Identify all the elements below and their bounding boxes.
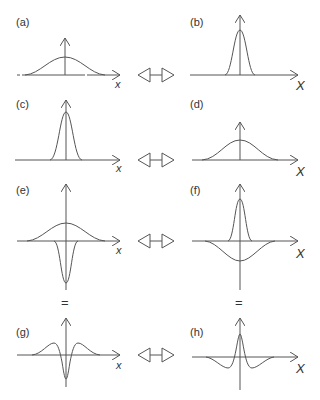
fourier-arrow-ef [138, 234, 174, 248]
panel-a: (a) x [16, 16, 121, 90]
panel-c: (c) x [15, 98, 122, 174]
fourier-arrow-gh [138, 348, 174, 362]
panel-f: (f) X [190, 184, 306, 290]
panel-g: (g) x [16, 318, 122, 387]
panel-h: (h) X [190, 318, 306, 390]
fourier-gaussian-diagram: (a) x (b) X (c) x (d) X (e) [0, 0, 320, 400]
panel-label-h: (h) [190, 326, 203, 338]
axis-label-x: X [295, 164, 306, 179]
panel-b: (b) X [190, 15, 306, 93]
axis-label-x: X [295, 78, 306, 93]
axis-label-x: X [295, 246, 306, 261]
panel-label-e: (e) [16, 184, 29, 196]
axis-label-x: x [115, 244, 122, 256]
panel-label-c: (c) [16, 98, 29, 110]
panel-label-a: (a) [16, 16, 29, 28]
axis-label-x: x [115, 162, 122, 174]
equals-sign-right: = [235, 295, 243, 310]
axis-label-x: X [295, 361, 306, 376]
fourier-arrow-ab [138, 68, 174, 82]
panel-label-f: (f) [190, 184, 200, 196]
panel-label-g: (g) [16, 326, 29, 338]
panel-e: (e) x [16, 184, 122, 290]
equals-sign-left: = [61, 295, 69, 310]
panel-label-b: (b) [190, 16, 203, 28]
fourier-arrow-cd [138, 153, 174, 167]
panel-label-d: (d) [190, 98, 203, 110]
panel-d: (d) X [190, 98, 306, 179]
axis-label-x: x [114, 78, 121, 90]
axis-label-x: x [115, 359, 122, 371]
